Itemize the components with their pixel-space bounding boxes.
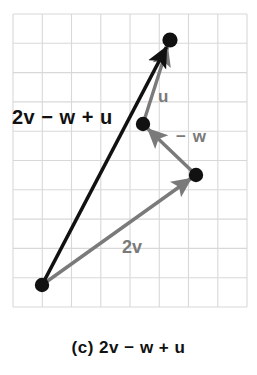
label-resultant-vector: 2v − w + u [12, 107, 113, 127]
vector-diagram-figure: 2v − w + u u − w 2v (c) 2v − w + u [0, 0, 257, 375]
label-vector-2v: 2v [122, 238, 142, 256]
point-tip-2v [189, 168, 203, 182]
point-tip-resultant [162, 32, 177, 47]
vector-plot-canvas [0, 0, 257, 375]
label-vector-neg-w: − w [176, 128, 207, 145]
point-tip-2v-minus-w [136, 117, 150, 131]
label-vector-u: u [158, 88, 168, 105]
figure-caption: (c) 2v − w + u [0, 338, 257, 358]
vector-2v-arrow [42, 179, 191, 286]
point-origin [35, 278, 49, 292]
vector-resultant-arrow [42, 47, 167, 285]
grid-lines [13, 14, 247, 307]
